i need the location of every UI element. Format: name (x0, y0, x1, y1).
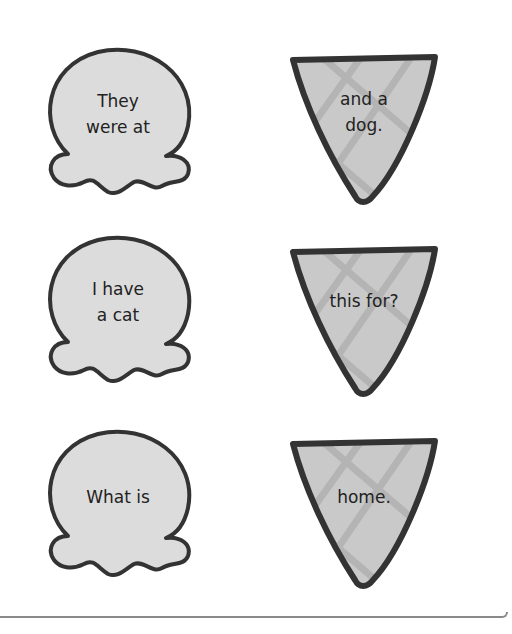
page-border (0, 612, 508, 618)
cone-card-2[interactable]: this for? (289, 248, 439, 398)
scoop-card-1[interactable]: They were at (38, 46, 198, 196)
cone-text: home. (289, 484, 439, 510)
ice-cream-cone-icon (289, 248, 439, 398)
cone-card-1[interactable]: and a dog. (289, 56, 439, 206)
scoop-text: What is (38, 484, 198, 510)
cone-text: and a dog. (289, 86, 439, 138)
scoop-text: I have a cat (38, 276, 198, 328)
ice-cream-cone-icon (289, 440, 439, 590)
scoop-card-2[interactable]: I have a cat (38, 234, 198, 384)
scoop-text: They were at (38, 88, 198, 140)
cone-text: this for? (289, 288, 439, 314)
cone-card-3[interactable]: home. (289, 440, 439, 590)
scoop-card-3[interactable]: What is (38, 428, 198, 578)
